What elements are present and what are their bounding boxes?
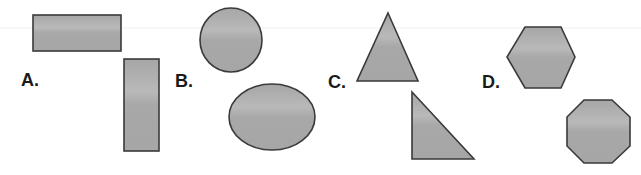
octagon — [567, 100, 630, 163]
shape-group-a — [33, 15, 159, 151]
group-d-label: D. — [482, 73, 500, 91]
shape-group-c — [357, 13, 474, 159]
shape-group-b — [200, 8, 315, 150]
vertical-rectangle — [124, 59, 159, 151]
ellipse — [229, 84, 315, 150]
right-triangle — [412, 92, 474, 159]
group-a-label: A. — [21, 71, 39, 89]
shapes-diagram — [0, 0, 641, 175]
isosceles-triangle — [357, 13, 418, 81]
circle — [200, 8, 262, 72]
group-c-label: C. — [328, 73, 346, 91]
horizontal-rectangle — [33, 15, 121, 51]
group-b-label: B. — [175, 72, 193, 90]
hexagon — [507, 27, 575, 88]
shape-group-d — [507, 27, 630, 163]
